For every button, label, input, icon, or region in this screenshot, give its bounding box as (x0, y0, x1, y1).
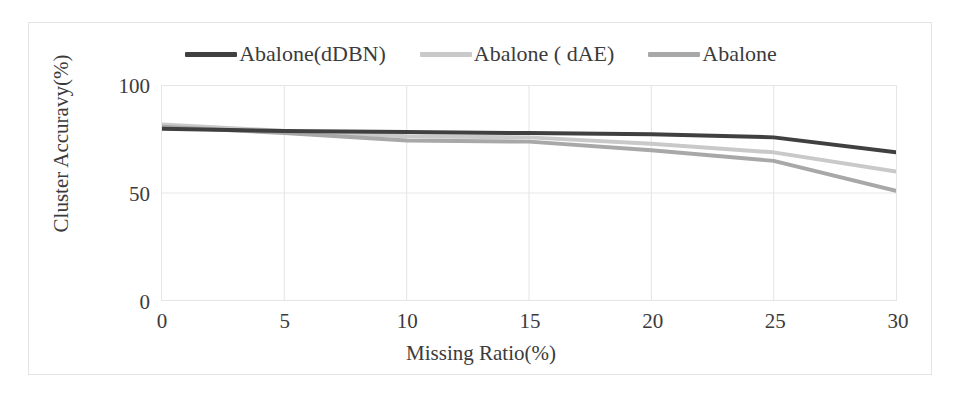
x-tick-label: 0 (157, 309, 168, 334)
legend-label-abalone-dae: Abalone ( dAE) (474, 42, 615, 66)
y-axis-title: Cluster Accuravy(%) (49, 24, 74, 264)
legend-label-abalone: Abalone (702, 42, 777, 66)
legend-item-abalone-ddbn[interactable]: Abalone(dDBN) (185, 42, 386, 66)
legend-swatch-abalone (648, 52, 700, 57)
legend-item-abalone-dae[interactable]: Abalone ( dAE) (420, 42, 615, 66)
chart-figure: Abalone(dDBN) Abalone ( dAE) Abalone Clu… (28, 22, 932, 375)
x-axis-title: Missing Ratio(%) (29, 341, 933, 366)
x-tick-label: 15 (520, 309, 541, 334)
y-tick-label: 50 (129, 182, 150, 207)
legend-swatch-abalone-ddbn (185, 52, 237, 57)
legend-swatch-abalone-dae (420, 52, 472, 57)
chart-legend: Abalone(dDBN) Abalone ( dAE) Abalone (29, 37, 933, 71)
y-tick-label: 100 (119, 74, 151, 99)
x-tick-label: 25 (765, 309, 786, 334)
x-tick-label: 10 (397, 309, 418, 334)
legend-item-abalone[interactable]: Abalone (648, 42, 777, 66)
plot-svg (162, 86, 896, 300)
gridlines (162, 86, 896, 300)
y-tick-label: 0 (140, 290, 151, 315)
legend-label-abalone-ddbn: Abalone(dDBN) (239, 42, 386, 66)
x-tick-label: 30 (888, 309, 909, 334)
plot-area: 050100 051015202530 (161, 85, 897, 301)
x-tick-label: 5 (279, 309, 290, 334)
x-tick-label: 20 (642, 309, 663, 334)
